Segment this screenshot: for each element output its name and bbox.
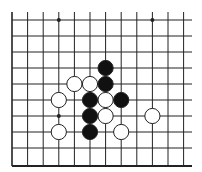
- star-point: [150, 18, 154, 22]
- white-stone: [51, 124, 66, 139]
- star-point: [57, 114, 61, 118]
- black-stone: [98, 60, 113, 75]
- black-stone: [82, 108, 97, 123]
- black-stone: [82, 92, 97, 107]
- black-stone: [98, 76, 113, 91]
- star-point: [57, 18, 61, 22]
- black-stone: [114, 92, 129, 107]
- white-stone: [82, 76, 97, 91]
- white-stone: [51, 92, 66, 107]
- white-stone: [98, 92, 113, 107]
- white-stone: [145, 108, 160, 123]
- go-board: [0, 0, 202, 172]
- white-stone: [114, 124, 129, 139]
- white-stone: [67, 76, 82, 91]
- white-stone: [98, 108, 113, 123]
- black-stone: [82, 124, 97, 139]
